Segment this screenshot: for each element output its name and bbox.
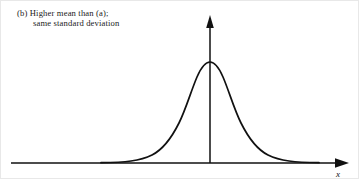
- x-axis-label: x: [335, 169, 340, 179]
- figure-container: (b) Higher mean than (a); same standard …: [0, 0, 359, 179]
- x-axis-arrow-icon: [335, 158, 349, 167]
- y-axis-arrow-icon: [206, 15, 214, 28]
- normal-distribution-plot: x: [1, 1, 359, 179]
